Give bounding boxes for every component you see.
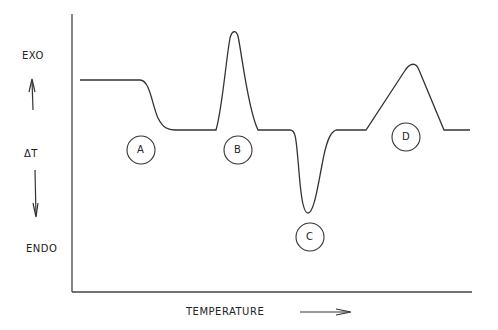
peak-label-b: B [234, 144, 241, 155]
peak-label-c: C [306, 231, 313, 242]
delta-t-label: ΔT [24, 148, 38, 159]
peak-label-a: A [137, 144, 144, 155]
peak-label-d: D [402, 131, 410, 142]
endo-label: ENDO [26, 243, 57, 254]
dta-curve [80, 32, 470, 213]
temperature-label: TEMPERATURE [186, 306, 264, 317]
down-arrow-icon [35, 170, 36, 216]
exo-label: EXO [22, 50, 44, 61]
dta-diagram [0, 0, 498, 330]
